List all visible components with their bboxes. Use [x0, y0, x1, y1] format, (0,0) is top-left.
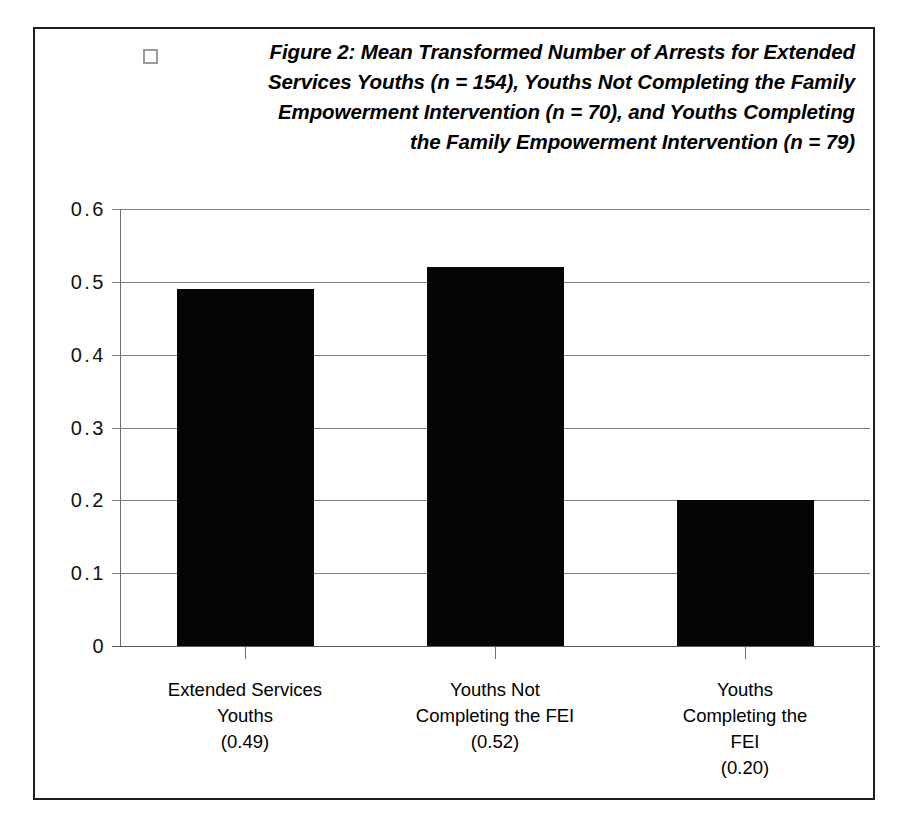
chart-plot-area: 0.60.50.40.30.20.10Extended ServicesYout… — [120, 209, 870, 646]
bar — [427, 267, 564, 646]
x-axis-category-label-line: Youths — [683, 677, 807, 703]
bar — [677, 500, 814, 646]
x-axis-category-label: Extended ServicesYouths(0.49) — [168, 677, 322, 755]
x-axis-category-label: Youths NotCompleting the FEI(0.52) — [416, 677, 574, 755]
x-axis-category-label: YouthsCompleting theFEI(0.20) — [683, 677, 807, 781]
x-axis-category-label-line: Youths Not — [416, 677, 574, 703]
x-axis-category-label-line: Completing the — [683, 703, 807, 729]
x-axis-tick — [495, 646, 496, 659]
y-axis-tick-label: 0.6 — [71, 199, 106, 219]
gridline — [112, 209, 870, 210]
x-axis-tick — [745, 646, 746, 659]
y-axis-tick-label: 0.5 — [71, 272, 106, 292]
x-axis-category-label-line: Extended Services — [168, 677, 322, 703]
bar — [177, 289, 314, 646]
chart-plot-wrapper: 0.60.50.40.30.20.10Extended ServicesYout… — [35, 29, 873, 798]
x-axis-baseline — [112, 646, 880, 647]
x-axis-category-label-line: FEI — [683, 729, 807, 755]
x-axis-category-label-line: (0.20) — [683, 755, 807, 781]
x-axis-tick — [245, 646, 246, 659]
y-axis-tick-label: 0.4 — [71, 345, 106, 365]
x-axis-category-label-line: Completing the FEI — [416, 703, 574, 729]
y-axis-tick-label: 0 — [92, 636, 106, 656]
y-axis-tick-label: 0.2 — [71, 490, 106, 510]
y-axis-tick-label: 0.1 — [71, 563, 106, 583]
x-axis-category-label-line: (0.52) — [416, 729, 574, 755]
x-axis-category-label-line: Youths — [168, 703, 322, 729]
figure-frame: Figure 2: Mean Transformed Number of Arr… — [33, 27, 875, 800]
x-axis-category-label-line: (0.49) — [168, 729, 322, 755]
y-axis-tick-label: 0.3 — [71, 418, 106, 438]
